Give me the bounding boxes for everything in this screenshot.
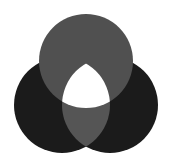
venn-diagram: [0, 0, 171, 165]
venn-svg: [0, 0, 171, 165]
